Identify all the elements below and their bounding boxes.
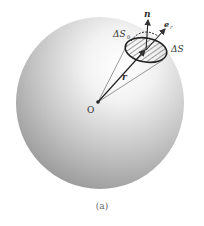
center-point <box>96 100 100 104</box>
label-area: ΔS <box>170 44 184 54</box>
label-projected-area-sub: 0 <box>127 34 130 40</box>
label-normal: n <box>144 9 151 19</box>
label-projected-area: ΔS <box>112 29 126 39</box>
sphere-flux-diagram: O r n e r ΔS ΔS 0 (a) <box>0 0 204 226</box>
figure-caption: (a) <box>0 201 204 211</box>
label-unit-radial: e <box>164 19 169 29</box>
label-unit-radial-sub: r <box>170 24 173 30</box>
diagram-canvas: O r n e r ΔS ΔS 0 <box>0 0 204 226</box>
label-center: O <box>87 105 94 115</box>
